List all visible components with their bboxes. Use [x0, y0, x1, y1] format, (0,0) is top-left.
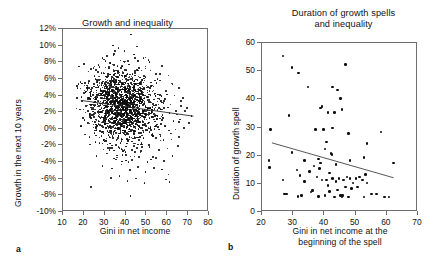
y-tick-label: -4%: [20, 156, 56, 166]
panel-b: Duration of growth spells and inequality…: [221, 0, 442, 273]
trendline-segment: [81, 100, 194, 116]
y-tick-mark: [257, 70, 261, 71]
y-tick-label: -2%: [20, 139, 56, 149]
panel-b-x-axis-label: Gini in net income at the beginning of t…: [245, 226, 435, 247]
y-tick-mark: [257, 183, 261, 184]
x-tick-mark: [417, 211, 418, 215]
y-tick-label: 6%: [20, 73, 56, 83]
y-tick-label: 60: [219, 37, 255, 47]
x-tick-mark: [83, 211, 84, 215]
y-tick-mark: [58, 144, 62, 145]
trendline-segment: [272, 143, 394, 178]
y-tick-mark: [58, 161, 62, 162]
x-tick-mark: [386, 211, 387, 215]
panel-a-letter: a: [16, 244, 21, 254]
x-tick-mark: [145, 211, 146, 215]
y-tick-mark: [58, 111, 62, 112]
y-tick-mark: [257, 42, 261, 43]
panel-a-x-axis-label: Gini in net income: [62, 226, 208, 237]
y-tick-label: 8%: [20, 56, 56, 66]
panel-a: Growth and inequality Growth in the next…: [0, 0, 221, 273]
y-tick-mark: [257, 127, 261, 128]
y-tick-mark: [58, 194, 62, 195]
y-tick-mark: [58, 95, 62, 96]
figure-scatter-panels: Growth and inequality Growth in the next…: [0, 0, 442, 273]
y-tick-label: -6%: [20, 173, 56, 183]
panel-b-letter: b: [228, 242, 233, 252]
y-tick-mark: [257, 98, 261, 99]
y-tick-label: 4%: [20, 90, 56, 100]
y-tick-label: -10%: [20, 206, 56, 216]
y-tick-label: 30: [219, 122, 255, 132]
y-tick-label: 50: [219, 65, 255, 75]
x-tick-mark: [323, 211, 324, 215]
y-tick-label: 20: [219, 150, 255, 160]
panel-b-x-axis-label-line-1: Gini in net income at the: [245, 226, 435, 237]
y-tick-label: 12%: [20, 23, 56, 33]
y-tick-label: 2%: [20, 106, 56, 116]
y-tick-mark: [58, 128, 62, 129]
y-tick-label: 0: [219, 206, 255, 216]
x-tick-mark: [187, 211, 188, 215]
y-tick-label: -8%: [20, 189, 56, 199]
y-tick-mark: [58, 45, 62, 46]
x-tick-mark: [292, 211, 293, 215]
x-tick-mark: [355, 211, 356, 215]
y-tick-label: 0%: [20, 123, 56, 133]
x-tick-mark: [208, 211, 209, 215]
y-tick-mark: [257, 155, 261, 156]
y-tick-label: 40: [219, 93, 255, 103]
x-tick-mark: [104, 211, 105, 215]
panel-b-x-axis-label-line-2: beginning of the spell: [245, 237, 435, 248]
y-tick-label: 10: [219, 178, 255, 188]
x-tick-mark: [261, 211, 262, 215]
y-tick-mark: [58, 61, 62, 62]
y-tick-mark: [58, 178, 62, 179]
x-tick-mark: [166, 211, 167, 215]
y-tick-label: 10%: [20, 40, 56, 50]
y-tick-mark: [58, 78, 62, 79]
x-tick-mark: [62, 211, 63, 215]
y-tick-mark: [58, 28, 62, 29]
x-tick-mark: [125, 211, 126, 215]
